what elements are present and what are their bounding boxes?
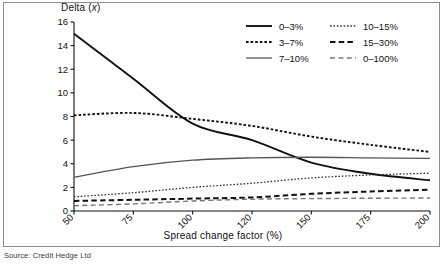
x-tick-label: 150	[294, 212, 313, 231]
legend-label: 10–15%	[363, 21, 398, 32]
x-tick-label: 175	[353, 212, 372, 231]
x-tick-label: 75	[119, 212, 134, 227]
legend-label: 0–100%	[363, 53, 398, 64]
y-tick-label: 2	[63, 182, 68, 193]
series-line	[74, 173, 430, 197]
y-tick-label: 14	[57, 40, 68, 51]
chart-figure: Delta (x) 024681012141650751001201501752…	[0, 0, 446, 265]
legend-label: 15–30%	[363, 37, 398, 48]
x-tick-label: 120	[234, 212, 253, 231]
x-axis-title: Spread change factor (%)	[0, 230, 446, 241]
source-note: Source: Credit Hedge Ltd	[4, 251, 91, 260]
y-tick-label: 12	[57, 64, 68, 75]
x-tick-label: 200	[412, 212, 431, 231]
legend-label: 0–3%	[279, 21, 304, 32]
y-tick-label: 6	[63, 135, 68, 146]
legend-label: 7–10%	[279, 53, 309, 64]
x-tick-label: 100	[175, 212, 194, 231]
y-tick-label: 4	[63, 158, 68, 169]
y-tick-label: 10	[57, 87, 68, 98]
legend-label: 3–7%	[279, 37, 304, 48]
series-line	[74, 113, 430, 152]
chart-canvas: 024681012141650751001201501752000–3%3–7%…	[0, 0, 446, 265]
y-tick-label: 8	[63, 111, 68, 122]
y-tick-label: 16	[57, 16, 68, 27]
